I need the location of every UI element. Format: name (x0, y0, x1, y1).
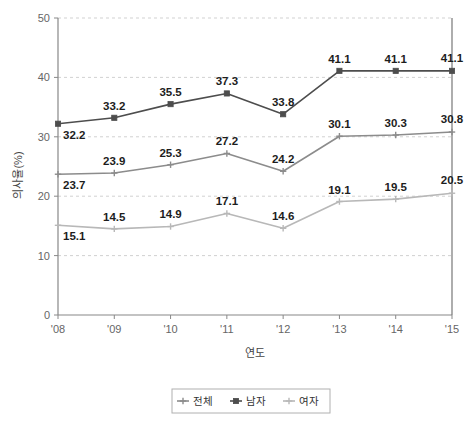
data-value-label: 33.8 (272, 96, 295, 108)
data-value-label: 30.1 (328, 118, 351, 130)
data-value-label: 17.1 (216, 195, 239, 207)
data-value-label: 25.3 (159, 147, 181, 159)
x-tick-label: '15 (445, 323, 459, 335)
data-value-label: 27.2 (216, 135, 238, 147)
y-axis-title: 의사율(%) (12, 151, 24, 198)
x-tick-label: '09 (107, 323, 121, 335)
data-value-label: 24.2 (272, 153, 294, 165)
data-value-label: 37.3 (216, 75, 238, 87)
y-tick-label: 50 (38, 12, 50, 24)
legend-label[interactable]: 남자 (246, 395, 266, 407)
data-point-marker (449, 68, 454, 73)
data-value-label: 30.3 (385, 117, 407, 129)
chart-container: 01020304050 '08'09'10'11'12'13'14'15 23.… (0, 0, 468, 422)
line-chart: 01020304050 '08'09'10'11'12'13'14'15 23.… (0, 0, 468, 422)
x-tick-label: '14 (389, 323, 403, 335)
legend-label[interactable]: 전체 (193, 395, 213, 407)
data-value-label: 41.1 (328, 53, 351, 65)
data-value-label: 14.9 (159, 208, 181, 220)
data-point-marker (281, 112, 286, 117)
y-tick-label: 40 (38, 71, 50, 83)
y-tick-label: 10 (38, 250, 50, 262)
data-point-marker (393, 68, 398, 73)
data-value-label: 19.5 (385, 181, 408, 193)
data-value-label: 20.5 (441, 174, 464, 186)
y-tick-label: 0 (44, 309, 50, 321)
x-tick-label: '12 (276, 323, 290, 335)
x-tick-label: '11 (220, 323, 234, 335)
y-axis-ticks: 01020304050 (38, 12, 58, 321)
chart-legend: 전체남자여자 (172, 389, 330, 413)
data-point-marker (55, 121, 60, 126)
data-value-label: 41.1 (441, 52, 464, 64)
x-tick-label: '13 (332, 323, 346, 335)
data-point-marker (233, 398, 238, 403)
data-value-label: 41.1 (385, 53, 408, 65)
data-value-label: 23.7 (63, 179, 85, 191)
data-value-label: 14.6 (272, 210, 294, 222)
data-point-marker (112, 115, 117, 120)
x-tick-label: '10 (163, 323, 177, 335)
x-tick-label: '08 (51, 323, 65, 335)
data-point-marker (337, 68, 342, 73)
y-tick-label: 30 (38, 131, 50, 143)
x-axis-ticks: '08'09'10'11'12'13'14'15 (51, 315, 459, 335)
data-value-label: 19.1 (328, 184, 351, 196)
data-point-marker (168, 102, 173, 107)
data-value-label: 30.8 (441, 113, 464, 125)
x-axis-title: 연도 (245, 347, 265, 359)
data-value-label: 15.1 (63, 230, 86, 242)
data-point-marker (224, 91, 229, 96)
legend-label[interactable]: 여자 (299, 395, 319, 407)
data-value-label: 14.5 (103, 211, 126, 223)
data-value-label: 32.2 (63, 129, 85, 141)
data-value-label: 35.5 (159, 86, 182, 98)
y-tick-label: 20 (38, 190, 50, 202)
data-value-label: 33.2 (103, 100, 125, 112)
data-value-label: 23.9 (103, 155, 125, 167)
